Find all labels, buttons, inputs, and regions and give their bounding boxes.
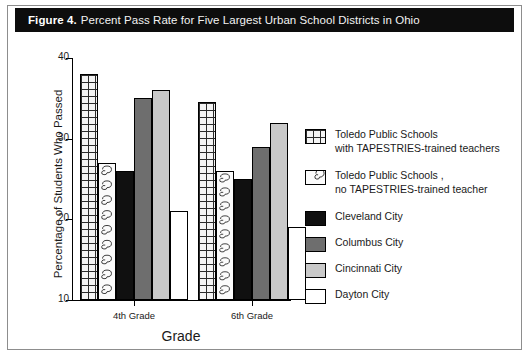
x-tick-6th bbox=[252, 300, 253, 306]
bar-6th-toledo-tapestries bbox=[198, 102, 216, 300]
x-axis-line bbox=[72, 300, 291, 301]
legend-label-cleveland: Cleveland City bbox=[335, 210, 403, 224]
legend-item-dayton[interactable]: Dayton City bbox=[305, 288, 515, 304]
legend-label-columbus: Columbus City bbox=[335, 236, 403, 250]
y-tick-label-40: 40 bbox=[58, 51, 69, 62]
legend-swatch-grid-icon bbox=[305, 129, 326, 144]
bar-6th-cleveland bbox=[234, 179, 252, 300]
x-tick-4th bbox=[134, 300, 135, 306]
legend-label-cincinnati: Cincinnati City bbox=[335, 262, 402, 276]
legend-swatch-cincinnati-icon bbox=[305, 263, 326, 278]
legend-item-toledo-no-tapestries[interactable]: Toledo Public Schools , no TAPESTRIES-tr… bbox=[305, 169, 515, 196]
y-tick-label-20: 20 bbox=[58, 212, 69, 223]
chart-legend: Toledo Public Schools with TAPESTRIES-tr… bbox=[305, 128, 515, 313]
y-axis-line bbox=[72, 58, 73, 301]
legend-item-cleveland[interactable]: Cleveland City bbox=[305, 210, 515, 226]
legend-item-cincinnati[interactable]: Cincinnati City bbox=[305, 262, 515, 278]
bar-6th-dayton bbox=[288, 227, 306, 300]
legend-swatch-swirl-icon bbox=[305, 170, 326, 185]
x-label-6th-grade: 6th Grade bbox=[231, 310, 273, 321]
bar-4th-columbus bbox=[134, 98, 152, 300]
bar-6th-columbus bbox=[252, 147, 270, 300]
bar-6th-toledo-no-tapestries bbox=[216, 171, 234, 300]
legend-label-toledo-tapestries: Toledo Public Schools with TAPESTRIES-tr… bbox=[335, 128, 500, 155]
legend-item-columbus[interactable]: Columbus City bbox=[305, 236, 515, 252]
bar-4th-toledo-no-tapestries bbox=[98, 163, 116, 300]
bar-4th-cleveland bbox=[116, 171, 134, 300]
legend-swatch-columbus-icon bbox=[305, 237, 326, 252]
y-tick-label-10: 10 bbox=[58, 293, 69, 304]
x-axis-title: Grade bbox=[72, 328, 290, 344]
bar-4th-dayton bbox=[170, 211, 188, 300]
legend-label-dayton: Dayton City bbox=[335, 288, 389, 302]
chart-plot-area: Percentage of Students Who Passed 40 30 … bbox=[0, 0, 529, 357]
y-axis-title: Percentage of Students Who Passed bbox=[52, 54, 64, 314]
legend-label-toledo-no-tapestries: Toledo Public Schools , no TAPESTRIES-tr… bbox=[335, 169, 488, 196]
bar-6th-cincinnati bbox=[270, 123, 288, 300]
bar-4th-toledo-tapestries bbox=[80, 74, 98, 300]
legend-swatch-dayton-icon bbox=[305, 289, 326, 304]
legend-swatch-cleveland-icon bbox=[305, 211, 326, 226]
y-tick-label-30: 30 bbox=[58, 132, 69, 143]
chart-axes: 40 30 20 10 bbox=[72, 58, 290, 300]
x-label-4th-grade: 4th Grade bbox=[113, 310, 155, 321]
bar-4th-cincinnati bbox=[152, 90, 170, 300]
legend-item-toledo-tapestries[interactable]: Toledo Public Schools with TAPESTRIES-tr… bbox=[305, 128, 515, 155]
